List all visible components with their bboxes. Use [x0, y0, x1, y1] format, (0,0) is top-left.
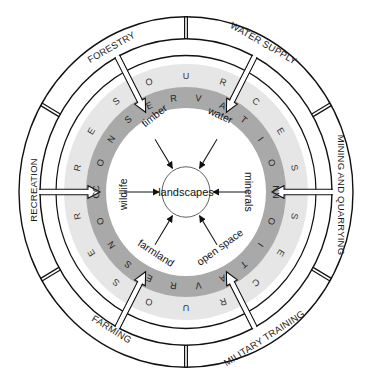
- center-label: landscapes: [158, 186, 214, 198]
- arrow-shaft-fill: [39, 190, 87, 194]
- segment-label-mining-and-quarrying: MINING AND QUARRYING: [336, 135, 347, 255]
- landscape-resources-diagram: RESOURCESRESOURCES CONSERVATIONCONSERVAT…: [0, 0, 365, 386]
- segment-label-recreation: RECREATION: [28, 158, 39, 222]
- ring-letter: N: [271, 192, 281, 199]
- arrow-shaft-fill: [285, 190, 333, 194]
- ring-letter: U: [183, 303, 190, 313]
- ring-letter: C: [91, 191, 101, 199]
- ring-letter: C: [91, 185, 101, 193]
- resource-label-wildlife: wildlife: [117, 178, 129, 211]
- ring-letter: U: [183, 70, 190, 80]
- resource-label-minerals: minerals: [243, 172, 255, 212]
